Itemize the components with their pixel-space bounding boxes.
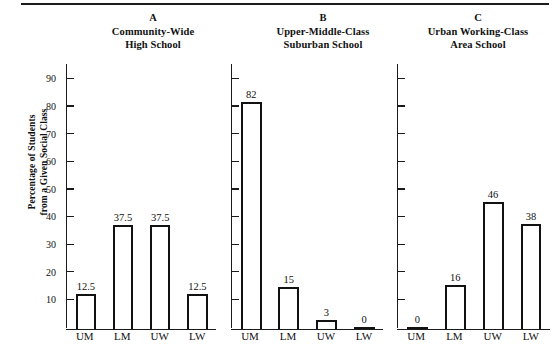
- x-tick-label-uw: UW: [309, 330, 344, 343]
- panel-a: 12.537.537.512.5 UMLMUWLW: [66, 64, 216, 330]
- panel-a-tick-50: [67, 188, 74, 189]
- panel-b-plot-area: 821530: [232, 66, 383, 329]
- panel-c-tick-20: [398, 271, 405, 272]
- bar-value-label: 0: [400, 314, 435, 325]
- bar-value-label: 12.5: [69, 281, 103, 292]
- x-tick-label-um: UM: [233, 330, 268, 343]
- y-tick-label-60: 60: [30, 157, 56, 167]
- panel-b: 821530 UMLMUWLW: [231, 64, 383, 330]
- bar[interactable]: [76, 294, 97, 329]
- panel-b-tick-60: [232, 161, 239, 162]
- panel-a-tick-30: [67, 244, 74, 245]
- bar[interactable]: [445, 285, 466, 329]
- panel-a-tick-60: [67, 161, 74, 162]
- panel-a-tick-70: [67, 133, 74, 134]
- panel-c-plot-area: 0164638: [398, 66, 550, 329]
- bar-slot: 38: [514, 66, 549, 329]
- x-tick-label-lw: LW: [180, 330, 215, 343]
- panel-title-c-line-1: Urban Working-Class: [400, 25, 555, 39]
- panel-b-tick-10: [232, 299, 239, 300]
- bar[interactable]: [521, 224, 542, 329]
- panel-a-tick-40: [67, 216, 74, 217]
- bar[interactable]: [113, 225, 134, 329]
- panel-letter-a: A: [78, 11, 228, 25]
- panel-c-tick-60: [398, 161, 405, 162]
- panel-a-x-labels: UMLMUWLW: [66, 330, 216, 343]
- bar-value-label: 15: [271, 274, 306, 285]
- bar-slot: 12.5: [180, 66, 214, 329]
- y-tick-label-30: 30: [30, 240, 56, 250]
- panel-b-tick-90: [232, 78, 239, 79]
- panel-c-tick-70: [398, 133, 405, 134]
- y-tick-label-40: 40: [30, 212, 56, 222]
- panel-title-b-line-1: Upper-Middle-Class: [248, 25, 398, 39]
- bar[interactable]: [187, 294, 208, 329]
- bar-slot: 3: [309, 66, 344, 329]
- bar-slot: 16: [438, 66, 473, 329]
- panel-letter-b: B: [248, 11, 398, 25]
- panel-title-c: C Urban Working-Class Area School: [400, 11, 555, 52]
- panel-title-a-line-1: Community-Wide: [78, 25, 228, 39]
- bar[interactable]: [278, 287, 299, 328]
- bar-slot: 37.5: [143, 66, 177, 329]
- y-axis-tick-labels: 102030405060708090: [30, 0, 56, 358]
- y-tick-label-20: 20: [30, 268, 56, 278]
- bar-slot: 15: [271, 66, 306, 329]
- x-tick-label-lm: LM: [437, 330, 472, 343]
- panel-b-x-labels: UMLMUWLW: [231, 330, 383, 343]
- panel-a-bars: 12.537.537.512.5: [67, 66, 216, 329]
- bar-value-label: 82: [234, 89, 269, 100]
- panel-c-tick-90: [398, 78, 405, 79]
- x-tick-label-lw: LW: [513, 330, 548, 343]
- panel-b-bars: 821530: [232, 66, 383, 329]
- x-tick-label-uw: UW: [143, 330, 178, 343]
- panel-c-bars: 0164638: [398, 66, 550, 329]
- bar-value-label: 16: [438, 272, 473, 283]
- panel-title-b-line-2: Suburban School: [248, 38, 398, 52]
- x-tick-label-lw: LW: [347, 330, 382, 343]
- panel-b-tick-80: [232, 105, 239, 106]
- header-rule: [21, 3, 549, 5]
- y-tick-label-70: 70: [30, 130, 56, 140]
- y-tick-label-90: 90: [30, 74, 56, 84]
- y-tick-label-50: 50: [30, 185, 56, 195]
- bar[interactable]: [407, 327, 428, 329]
- x-tick-label-uw: UW: [475, 330, 510, 343]
- panel-a-tick-10: [67, 299, 74, 300]
- panel-title-a-line-2: High School: [78, 38, 228, 52]
- bar-value-label: 37.5: [143, 212, 177, 223]
- panel-a-plot-area: 12.537.537.512.5: [67, 66, 216, 329]
- bar-slot: 46: [476, 66, 511, 329]
- bar[interactable]: [354, 327, 375, 329]
- bar[interactable]: [241, 102, 262, 329]
- bar[interactable]: [316, 320, 337, 328]
- bar-value-label: 38: [514, 211, 549, 222]
- panel-b-tick-50: [232, 188, 239, 189]
- bar-slot: 0: [347, 66, 382, 329]
- panel-a-tick-20: [67, 271, 74, 272]
- x-tick-label-lm: LM: [271, 330, 306, 343]
- panel-a-tick-80: [67, 105, 74, 106]
- panel-c-tick-30: [398, 244, 405, 245]
- bar-slot: 0: [400, 66, 435, 329]
- x-tick-label-um: UM: [399, 330, 434, 343]
- bar-slot: 37.5: [106, 66, 140, 329]
- x-tick-label-um: UM: [68, 330, 103, 343]
- panel-c-tick-10: [398, 299, 405, 300]
- panel-b-tick-20: [232, 271, 239, 272]
- panel-b-tick-40: [232, 216, 239, 217]
- y-tick-label-10: 10: [30, 295, 56, 305]
- bar[interactable]: [150, 225, 171, 329]
- panel-title-c-line-2: Area School: [400, 38, 555, 52]
- bar-value-label: 3: [309, 307, 344, 318]
- panel-c-tick-80: [398, 105, 405, 106]
- panel-title-a: A Community-Wide High School: [78, 11, 228, 52]
- x-tick-label-lm: LM: [105, 330, 140, 343]
- panel-b-tick-30: [232, 244, 239, 245]
- bar-value-label: 46: [476, 189, 511, 200]
- panel-c-tick-40: [398, 216, 405, 217]
- panel-letter-c: C: [400, 11, 555, 25]
- bar-value-label: 37.5: [106, 212, 140, 223]
- bar[interactable]: [483, 202, 504, 329]
- panel-title-b: B Upper-Middle-Class Suburban School: [248, 11, 398, 52]
